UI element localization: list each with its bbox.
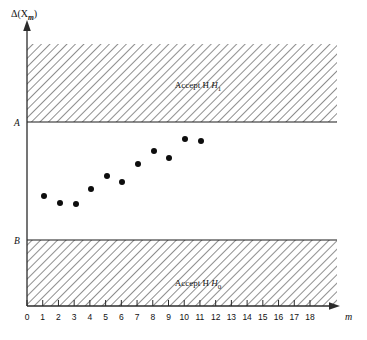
x-tick-label: 14 <box>242 312 252 322</box>
x-tick-label: 16 <box>274 312 284 322</box>
x-tick-label: 2 <box>56 312 61 322</box>
x-tick-label: 1 <box>40 312 45 322</box>
data-point <box>41 193 47 199</box>
x-tick-label: 8 <box>150 312 155 322</box>
y-axis-label: Δ(Xm) <box>11 8 37 22</box>
data-point <box>119 179 125 185</box>
data-point-group <box>41 136 204 207</box>
data-point <box>182 136 188 142</box>
data-point <box>88 186 94 192</box>
data-point <box>73 201 79 207</box>
data-point <box>198 138 204 144</box>
x-tick-label: 13 <box>227 312 237 322</box>
x-tick-label: 4 <box>88 312 93 322</box>
x-axis-label: m <box>345 311 352 322</box>
x-tick-label: 0 <box>25 312 30 322</box>
x-tick-label: 11 <box>196 312 205 322</box>
boundary-label-a: A <box>13 118 20 128</box>
accept-h0-region <box>27 240 337 306</box>
data-point <box>151 148 157 154</box>
data-point <box>135 161 141 167</box>
data-point <box>166 155 172 161</box>
x-tick-label: 7 <box>135 312 140 322</box>
data-point <box>57 200 63 206</box>
x-tick-label: 18 <box>305 312 315 322</box>
sequential-test-chart: Accept H H1 Accept H H0 Δ(Xm) m A B 0123… <box>0 0 367 340</box>
x-tick-label: 12 <box>211 312 221 322</box>
boundary-label-b: B <box>14 236 20 246</box>
data-point <box>104 173 110 179</box>
x-tick-label: 9 <box>166 312 171 322</box>
x-tick-label: 10 <box>179 312 189 322</box>
x-tick-label: 15 <box>258 312 268 322</box>
x-tick-label: 3 <box>72 312 77 322</box>
x-tick-label: 17 <box>290 312 300 322</box>
x-tick-label: 6 <box>119 312 124 322</box>
x-tick-label: 5 <box>103 312 108 322</box>
chart-canvas: Accept H H1 Accept H H0 Δ(Xm) m A B 0123… <box>0 0 367 340</box>
